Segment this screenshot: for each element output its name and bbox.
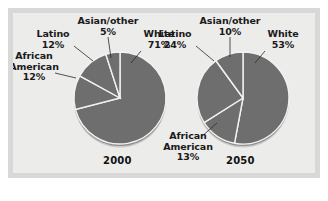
label-2000-asian-other-name: Asian/other <box>78 15 139 26</box>
chart-canvas: Asian/other 5% Latino 12% African Americ… <box>13 13 315 173</box>
label-2050-latino: Latino 24% <box>151 29 199 50</box>
label-2000-african-american: African American 12% <box>13 51 61 83</box>
label-2000-latino: Latino 12% <box>29 29 77 50</box>
label-2050-white: White 53% <box>263 29 303 50</box>
label-2000-asian-other-pct: 5% <box>75 27 141 38</box>
label-2000-latino-name: Latino <box>37 28 70 39</box>
label-2050-latino-pct: 24% <box>151 40 199 51</box>
label-2000-african-american-name-1: African <box>15 50 53 61</box>
label-2050-asian-other-pct: 10% <box>197 27 263 38</box>
figure-root: Asian/other 5% Latino 12% African Americ… <box>0 0 328 201</box>
year-label-2000: 2000 <box>103 155 132 166</box>
label-2050-african-american: African American 13% <box>161 131 215 163</box>
label-2050-latino-name: Latino <box>159 28 192 39</box>
pie-chart-2000 <box>68 46 172 150</box>
label-2050-white-pct: 53% <box>263 40 303 51</box>
label-2050-asian-other-name: Asian/other <box>200 15 261 26</box>
label-2000-latino-pct: 12% <box>29 40 77 51</box>
label-2050-white-name: White <box>268 28 299 39</box>
label-2000-asian-other: Asian/other 5% <box>75 16 141 37</box>
label-2000-african-american-pct: 12% <box>13 72 61 83</box>
year-label-2050: 2050 <box>226 155 255 166</box>
label-2050-african-american-name-1: African <box>169 130 207 141</box>
label-2050-african-american-pct: 13% <box>161 152 215 163</box>
chart-frame: Asian/other 5% Latino 12% African Americ… <box>8 8 320 178</box>
label-2050-asian-other: Asian/other 10% <box>197 16 263 37</box>
